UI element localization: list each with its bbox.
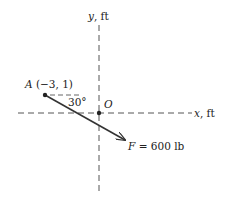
x-axis-unit: , ft — [200, 107, 215, 119]
angle-label: 30° — [68, 97, 87, 108]
point-a-name: A — [25, 78, 33, 90]
y-axis-unit: , ft — [94, 10, 109, 22]
diagram-canvas — [0, 0, 230, 205]
y-axis-label: y, ft — [88, 11, 109, 22]
origin-label: O — [104, 99, 113, 110]
origin-dot — [97, 111, 101, 115]
point-a-coords: (−3, 1) — [36, 78, 73, 90]
force-value: = 600 lb — [135, 140, 184, 152]
point-a-label: A (−3, 1) — [25, 79, 73, 90]
force-label: F = 600 lb — [128, 141, 184, 152]
x-axis-label: x, ft — [194, 108, 215, 119]
point-a-dot — [43, 93, 47, 97]
